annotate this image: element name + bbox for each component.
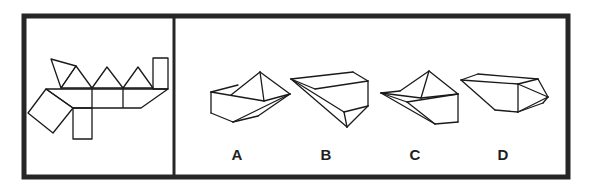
option-figure-a[interactable] <box>211 72 290 122</box>
option-label-b: B <box>321 146 332 163</box>
unfolded-net <box>28 58 168 139</box>
option-figure-b[interactable] <box>291 72 368 127</box>
option-figure-c[interactable] <box>381 71 458 124</box>
net-square-face <box>28 89 73 133</box>
option-label-a: A <box>232 146 243 163</box>
option-label-d: D <box>498 146 509 163</box>
net-triangle-face <box>92 67 123 88</box>
option-figure-d[interactable] <box>461 74 548 112</box>
answer-options <box>211 71 548 127</box>
net-rect-face <box>153 58 168 89</box>
net-rect-face <box>73 108 92 139</box>
outer-border <box>24 16 568 177</box>
net-band-face <box>46 89 168 108</box>
frame <box>24 16 568 177</box>
net-triangle-face <box>61 66 92 88</box>
net-triangle-face <box>123 67 153 88</box>
option-label-c: C <box>410 146 421 163</box>
